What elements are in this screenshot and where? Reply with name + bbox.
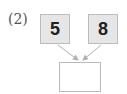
- answer-box[interactable]: [59, 62, 101, 92]
- arrow-right-icon: [83, 45, 101, 60]
- arrow-left-icon: [58, 45, 78, 60]
- number-combine-exercise: (2) 5 8: [0, 0, 127, 94]
